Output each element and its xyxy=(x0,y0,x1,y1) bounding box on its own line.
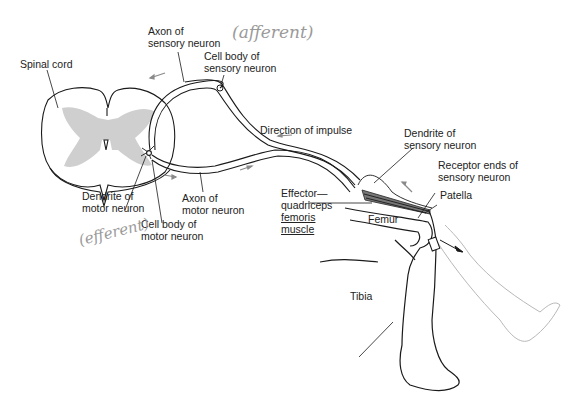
label-receptor-line1: Receptor ends of xyxy=(438,159,518,171)
label-tibia: Tibia xyxy=(350,290,372,302)
label-axon-motor-line1: Axon of xyxy=(182,192,218,204)
label-receptor-line2: sensory neuron xyxy=(438,171,510,183)
ghost-leg-extended xyxy=(436,225,560,341)
label-spinal-cord: Spinal cord xyxy=(20,58,73,70)
handwritten-afferent: (afferent) xyxy=(232,22,313,42)
label-dendrite-motor-line2: motor neuron xyxy=(82,202,144,214)
label-axon-sensory-line1: Axon of xyxy=(148,25,184,37)
label-cell-body-sensory-line1: Cell body of xyxy=(204,50,259,62)
reflex-arc-diagram: Spinal cord Axon of sensory neuron Cell … xyxy=(0,0,580,415)
label-effector-line1: Effector— xyxy=(281,187,328,199)
label-direction-of-impulse: Direction of impulse xyxy=(260,124,352,136)
label-cell-body-sensory-line2: sensory neuron xyxy=(204,62,276,74)
label-dendrite-sensory-line1: Dendrite of xyxy=(404,127,455,139)
label-effector-line3: femoris xyxy=(281,211,315,223)
leg-outline xyxy=(320,208,459,391)
label-dendrite-motor-line1: Dendrite of xyxy=(82,190,133,202)
label-effector-line4: muscle xyxy=(281,223,314,235)
label-effector-line2: quadriceps xyxy=(281,199,332,211)
quadriceps-muscle xyxy=(358,175,432,214)
label-axon-motor-line2: motor neuron xyxy=(182,204,244,216)
label-axon-sensory-line2: sensory neuron xyxy=(148,37,220,49)
label-femur: Femur xyxy=(368,213,398,225)
label-dendrite-sensory-line2: sensory neuron xyxy=(404,139,476,151)
label-patella: Patella xyxy=(440,189,472,201)
